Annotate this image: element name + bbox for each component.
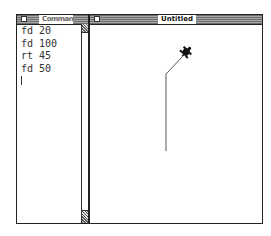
turtle-icon: [178, 43, 194, 59]
turtle-canvas: [0, 0, 271, 236]
turtle-trail: [166, 55, 184, 151]
